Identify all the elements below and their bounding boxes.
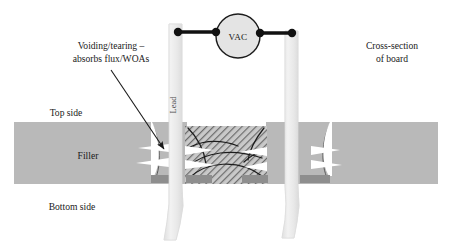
cross-section-label-line1: Cross-section [366, 40, 418, 51]
top-side-label: Top side [50, 107, 83, 118]
pad [242, 175, 268, 183]
pad [300, 175, 330, 183]
annotation-label-line1: Voiding/tearing – [78, 40, 145, 51]
lead-label: Lead [169, 96, 178, 114]
bottom-side-label: Bottom side [49, 201, 96, 212]
figure-root: VAC Voiding/tearing – absorbs flux/WOAs … [0, 0, 460, 252]
cross-section-label-line2: of board [376, 53, 408, 64]
terminal-vac-right-dot [256, 29, 264, 37]
vac-label: VAC [228, 32, 247, 42]
terminal-left-dot [174, 28, 182, 36]
terminal-right-dot [288, 29, 296, 37]
pad [186, 175, 212, 183]
terminal-vac-left-dot [212, 28, 220, 36]
cross-section-diagram: VAC Voiding/tearing – absorbs flux/WOAs … [0, 0, 460, 252]
annotation-label-line2: absorbs flux/WOAs [73, 53, 150, 64]
board-gap-right [266, 122, 286, 184]
filler-label: Filler [78, 150, 100, 161]
